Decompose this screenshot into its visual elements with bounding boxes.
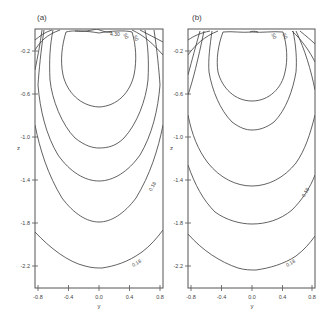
svg-text:0.0: 0.0 [95, 294, 103, 300]
x-axis-a: -0.8 -0.4 0.0 0.4 0.8 y [33, 285, 164, 309]
contour-figure: (a) 4.30 .50 .50 0.18 0.18 [0, 0, 332, 325]
svg-text:-0.8: -0.8 [186, 294, 195, 300]
x-axis-label-b: y [251, 303, 254, 309]
y-axis-label-b: z [170, 145, 173, 151]
contour-label-b-top1: .50 [270, 31, 279, 40]
svg-text:0.8: 0.8 [156, 294, 164, 300]
contour-label-a-top2: .50 [122, 31, 131, 40]
contour-lines-a [35, 29, 163, 268]
svg-text:0.4: 0.4 [126, 294, 134, 300]
svg-text:0.4: 0.4 [279, 294, 287, 300]
x-axis-b: -0.8 -0.4 0.0 0.4 0.8 y [186, 285, 316, 309]
plot-frame-a [35, 29, 163, 288]
contour-label-a-1: 0.18 [147, 180, 157, 192]
y-axis-label-a: z [17, 145, 20, 151]
svg-text:-1.4: -1.4 [21, 177, 30, 183]
contour-label-b-top2: .50 [281, 31, 290, 40]
svg-text:-0.4: -0.4 [64, 294, 73, 300]
panel-label-a: (a) [37, 13, 47, 22]
svg-text:-0.6: -0.6 [21, 91, 30, 97]
svg-text:-0.4: -0.4 [217, 294, 226, 300]
svg-text:0.8: 0.8 [308, 294, 316, 300]
contour-label-a-2: 0.18 [131, 258, 143, 268]
svg-text:-0.6: -0.6 [174, 91, 183, 97]
svg-text:-0.8: -0.8 [33, 294, 42, 300]
svg-text:-1.8: -1.8 [21, 220, 30, 226]
svg-text:-2.2: -2.2 [21, 263, 30, 269]
svg-text:-1.8: -1.8 [174, 220, 183, 226]
svg-text:-1.4: -1.4 [174, 177, 183, 183]
svg-text:-0.2: -0.2 [174, 48, 183, 54]
contour-label-b-2: 0.18 [285, 258, 297, 268]
panel-b: (b) .50 .50 0.18 0.18 [170, 13, 316, 309]
svg-text:-1.0: -1.0 [174, 134, 183, 140]
contour-label-a-top3: .50 [132, 33, 141, 42]
contour-lines-b [188, 31, 315, 270]
svg-text:-2.2: -2.2 [174, 263, 183, 269]
x-axis-label-a: y [98, 303, 101, 309]
svg-text:0.0: 0.0 [248, 294, 256, 300]
svg-text:-1.0: -1.0 [21, 134, 30, 140]
contour-label-a-top: 4.30 [110, 31, 120, 37]
panel-label-b: (b) [192, 13, 202, 22]
panel-a: (a) 4.30 .50 .50 0.18 0.18 [17, 13, 164, 309]
svg-text:-0.2: -0.2 [21, 48, 30, 54]
